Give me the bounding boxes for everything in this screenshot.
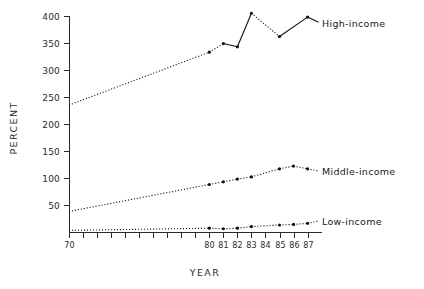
data-point: [222, 180, 225, 183]
y-tick-label-100: 100: [42, 174, 60, 184]
x-tick-label-80: 80: [204, 241, 215, 250]
data-point: [278, 167, 281, 170]
series-label-high-income: High-income: [322, 18, 385, 29]
data-point: [236, 45, 239, 48]
y-tick-label-200: 200: [42, 120, 60, 130]
y-tick-label-300: 300: [42, 66, 60, 76]
y-tick-label-250: 250: [42, 93, 60, 103]
data-point: [222, 227, 225, 230]
y-tick-label-350: 350: [42, 39, 60, 49]
data-point: [292, 223, 295, 226]
data-point: [278, 35, 281, 38]
data-point: [292, 165, 295, 168]
data-point: [222, 42, 225, 45]
series-label-low-income: Low-income: [322, 216, 382, 227]
x-tick-label-82: 82: [232, 241, 243, 250]
x-axis-title: YEAR: [189, 267, 221, 278]
x-tick-label-70: 70: [64, 241, 75, 250]
data-point: [208, 227, 211, 230]
line-chart: 50100150200250300350400 7080818283848586…: [0, 0, 424, 289]
data-point: [236, 227, 239, 230]
y-tick-label-50: 50: [48, 201, 60, 211]
x-tick-label-85: 85: [275, 241, 286, 250]
x-tick-label-84: 84: [260, 241, 271, 250]
x-tick-label-87: 87: [303, 241, 314, 250]
x-tick-label-81: 81: [218, 241, 229, 250]
data-point: [250, 12, 253, 15]
x-tick-label-86: 86: [289, 241, 300, 250]
y-axis-title: PERCENT: [8, 101, 19, 154]
series-label-middle-income: Middle-income: [322, 166, 396, 177]
data-point: [250, 225, 253, 228]
data-point: [250, 175, 253, 178]
chart-container: 50100150200250300350400 7080818283848586…: [0, 0, 424, 289]
data-point: [236, 177, 239, 180]
data-point: [208, 183, 211, 186]
y-tick-label-150: 150: [42, 147, 60, 157]
data-point: [208, 51, 211, 54]
data-point: [278, 223, 281, 226]
x-tick-label-83: 83: [246, 241, 257, 250]
y-tick-label-400: 400: [42, 12, 60, 22]
